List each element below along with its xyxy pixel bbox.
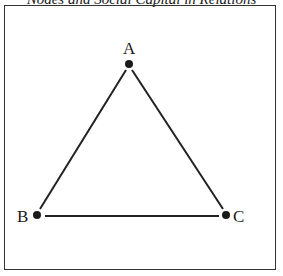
node-c [222,211,230,219]
node-a-label: A [123,39,136,58]
node-b-label: B [17,207,28,226]
node-c-label: C [233,207,244,226]
edge-a-b [40,70,126,209]
node-b [33,211,41,219]
triangle-network: A B C [0,0,283,276]
edge-a-c [132,70,223,209]
node-a [125,60,133,68]
